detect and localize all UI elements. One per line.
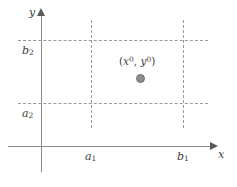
x-axis-label: x <box>218 148 224 161</box>
dashed-line-y-upper-bound <box>18 40 208 41</box>
dashed-line-y-lower-bound <box>18 103 208 104</box>
coordinate-plane-figure: y x b2 a2 a1 b1 (x0, y0) <box>0 0 237 187</box>
y-axis-tick-label-upper: b2 <box>22 44 34 57</box>
dashed-line-x-lower-bound <box>91 20 92 128</box>
marked-point-dot <box>136 74 145 83</box>
marked-point-label: (x0, y0) <box>119 55 155 67</box>
point-comma: , <box>134 55 141 67</box>
y-axis <box>41 14 42 172</box>
y-axis-label: y <box>29 6 35 19</box>
x-axis-tick-label-upper: b1 <box>177 150 189 163</box>
y-upper-subscript: 2 <box>29 48 34 57</box>
y-axis-arrowhead-icon <box>37 8 45 16</box>
x-upper-subscript: 1 <box>184 154 189 163</box>
y-lower-subscript: 2 <box>29 111 34 120</box>
x-lower-subscript: 1 <box>92 154 97 163</box>
y-axis-tick-label-lower: a2 <box>22 107 33 120</box>
x-axis-arrowhead-icon <box>210 142 218 150</box>
dashed-line-x-upper-bound <box>183 20 184 128</box>
point-close-paren: ) <box>151 55 155 67</box>
x-axis <box>8 146 215 147</box>
x-axis-tick-label-lower: a1 <box>85 150 96 163</box>
